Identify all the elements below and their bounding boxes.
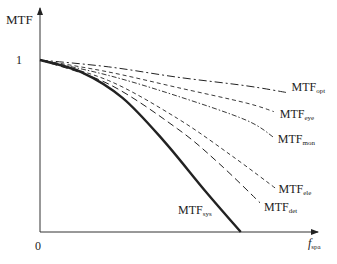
series-label-det: MTFdet bbox=[264, 200, 297, 215]
mtf-chart: MTF 1 0 fspa MTFoptMTFeyeMTFmonMTFeleMTF… bbox=[0, 0, 337, 264]
series-line-mon bbox=[40, 60, 274, 137]
series-label-eye: MTFeye bbox=[280, 107, 314, 122]
x-axis-label: fspa bbox=[308, 236, 322, 251]
series-label-mon: MTFmon bbox=[278, 132, 316, 147]
series-label-ele: MTFele bbox=[279, 182, 312, 197]
series-label-sys: MTFsys bbox=[178, 203, 212, 218]
y-axis-label: MTF bbox=[6, 12, 33, 27]
y-tick-label-1: 1 bbox=[16, 53, 22, 67]
series-label-opt: MTFopt bbox=[292, 80, 326, 95]
series-line-sys bbox=[40, 60, 241, 232]
series-line-opt bbox=[40, 60, 288, 93]
origin-label: 0 bbox=[35, 239, 41, 253]
series-line-ele bbox=[40, 60, 277, 189]
